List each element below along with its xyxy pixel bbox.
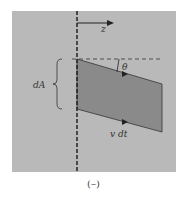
- diagram: z θ v dt dA: [0, 0, 187, 197]
- vdt-label: v dt: [110, 129, 128, 139]
- theta-label: θ: [122, 62, 128, 72]
- z-label: z: [100, 24, 106, 34]
- figure-caption: (–): [0, 178, 187, 189]
- dA-label: dA: [33, 80, 46, 90]
